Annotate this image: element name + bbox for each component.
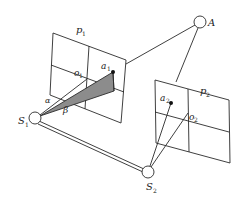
baseline-S1-S2-b xyxy=(38,124,143,172)
ray-A-to-S2 xyxy=(176,28,198,82)
label-p2-sub: 2 xyxy=(206,91,210,98)
baseline-S1-S2-a xyxy=(39,121,144,169)
point-A-circle xyxy=(194,16,206,28)
label-alpha: α xyxy=(45,96,51,105)
label-S2-sub: 2 xyxy=(153,187,157,194)
station-S1-circle xyxy=(29,112,41,124)
label-a1: a xyxy=(101,61,106,71)
ray-A-to-plane-1 xyxy=(126,25,195,64)
label-o1-sub: 1 xyxy=(79,72,83,79)
label-o2-sub: 2 xyxy=(194,116,198,123)
label-S1-sub: 1 xyxy=(25,121,29,128)
stereo-geometry-diagram: A p 1 p 2 a 1 a 2 o 1 o 2 α β S 1 S 2 xyxy=(0,0,241,205)
label-a2-sub: 2 xyxy=(166,97,170,104)
label-S1: S xyxy=(18,115,25,126)
label-a1-sub: 1 xyxy=(107,65,111,72)
label-beta: β xyxy=(62,105,68,115)
label-p1-sub: 1 xyxy=(82,30,86,37)
station-S2-circle xyxy=(142,166,154,178)
label-S2: S xyxy=(146,181,153,192)
label-A: A xyxy=(207,17,215,28)
label-a2: a xyxy=(160,93,165,103)
image-plane-1 xyxy=(50,33,126,123)
image-point-a1-dot xyxy=(111,70,115,74)
